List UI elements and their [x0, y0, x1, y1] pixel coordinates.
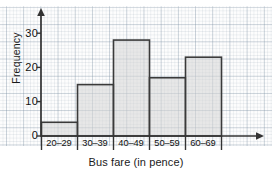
histogram-chart: Frequency 30 20 10 0 20–29 30–39 40–49 5… [0, 0, 272, 174]
bar-50-59 [150, 78, 186, 136]
x-tick-label-30-39: 30–39 [77, 138, 113, 148]
x-axis-label: Bus fare (in pence) [0, 156, 272, 168]
bar-20-29 [42, 122, 78, 136]
x-tick-label-20-29: 20–29 [41, 138, 77, 148]
bar-40-49 [114, 40, 150, 136]
y-axis-arrow [37, 8, 45, 16]
x-tick-label-40-49: 40–49 [113, 138, 149, 148]
bar-60-69 [186, 57, 222, 136]
x-tick-label-50-59: 50–59 [149, 138, 185, 148]
x-tick-label-60-69: 60–69 [185, 138, 221, 148]
bar-30-39 [78, 85, 114, 136]
x-axis-arrow [256, 132, 264, 140]
